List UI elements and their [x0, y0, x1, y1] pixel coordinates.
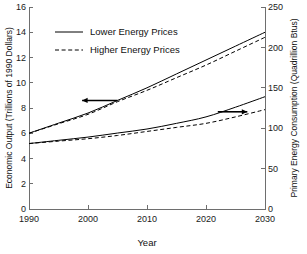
legend-label-2: Higher Energy Prices	[90, 44, 180, 55]
left-tick-label: 10	[16, 78, 26, 88]
right-tick-label: 50	[268, 164, 278, 174]
x-axis-ticks: 19902000201020202030	[19, 205, 275, 224]
x-axis-title: Year	[137, 237, 156, 248]
dual-axis-line-chart: 0246810121416 050100150200250 1990200020…	[0, 0, 307, 254]
x-tick-label: 2030	[255, 214, 275, 224]
right-tick-label: 250	[268, 2, 283, 12]
right-tick-label: 200	[268, 43, 283, 53]
right-axis-pointer-arrowhead	[242, 109, 248, 114]
y2-axis-title: Primary Energy Consumption (Quadrillion …	[289, 18, 299, 197]
right-tick-label: 100	[268, 123, 283, 133]
left-tick-label: 4	[21, 154, 26, 164]
legend-label-1: Lower Energy Prices	[90, 26, 178, 37]
left-axis-ticks: 0246810121416	[16, 2, 33, 214]
series-line-4-right-dashed	[29, 110, 265, 144]
left-tick-label: 8	[21, 103, 26, 113]
right-tick-label: 0	[268, 204, 273, 214]
x-tick-label: 2010	[137, 214, 157, 224]
left-tick-label: 14	[16, 27, 26, 37]
right-tick-label: 150	[268, 83, 283, 93]
chart-legend: Lower Energy PricesHigher Energy Prices	[55, 26, 180, 55]
right-axis-ticks: 050100150200250	[261, 2, 283, 214]
x-tick-label: 2000	[78, 214, 98, 224]
left-tick-label: 6	[21, 128, 26, 138]
left-tick-label: 12	[16, 53, 26, 63]
y-axis-title: Economic Output (Trillions of 1990 Dolla…	[4, 27, 14, 189]
x-tick-label: 1990	[19, 214, 39, 224]
left-tick-label: 16	[16, 2, 26, 12]
left-tick-label: 0	[21, 204, 26, 214]
chart-figure: 0246810121416 050100150200250 1990200020…	[0, 0, 307, 254]
series-line-3-right-solid	[29, 97, 265, 144]
x-tick-label: 2020	[196, 214, 216, 224]
left-axis-pointer-arrowhead	[82, 98, 88, 103]
left-tick-label: 2	[21, 179, 26, 189]
